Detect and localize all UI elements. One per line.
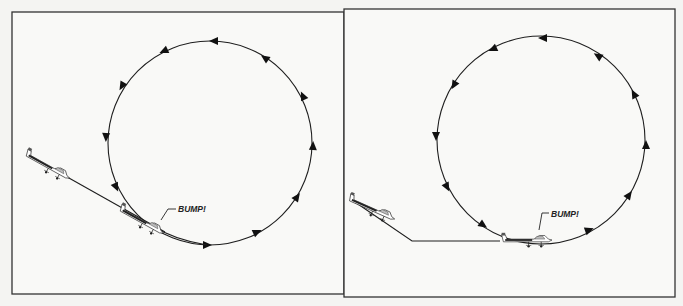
right-panel-frame xyxy=(344,9,675,297)
flight-path-diagram: BUMP! BUMP! xyxy=(0,0,683,306)
left-panel: BUMP! xyxy=(12,12,344,294)
right-panel: BUMP! xyxy=(344,9,675,297)
left-panel-frame xyxy=(12,12,344,294)
left-bump-label: BUMP! xyxy=(178,204,206,214)
right-bump-label: BUMP! xyxy=(551,209,579,219)
